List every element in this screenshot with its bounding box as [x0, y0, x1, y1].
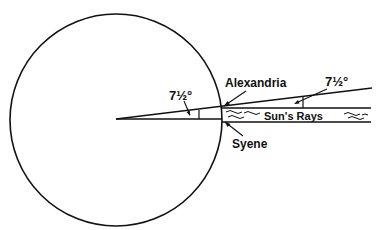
center-angle-label: 7½°: [169, 88, 192, 103]
wave-icon: [344, 113, 368, 120]
suns-rays-label: Sun's Rays: [264, 110, 323, 122]
eratosthenes-diagram: Alexandria Syene Sun's Rays 7½° 7½°: [0, 0, 384, 230]
earth-circle: [10, 14, 222, 226]
arrowhead-icon: [187, 111, 191, 116]
syene-label: Syene: [232, 137, 268, 151]
ray-angle-label: 7½°: [325, 74, 348, 89]
wave-icon: [226, 111, 260, 119]
alexandria-label: Alexandria: [225, 76, 287, 90]
arrowhead-icon: [294, 100, 300, 104]
